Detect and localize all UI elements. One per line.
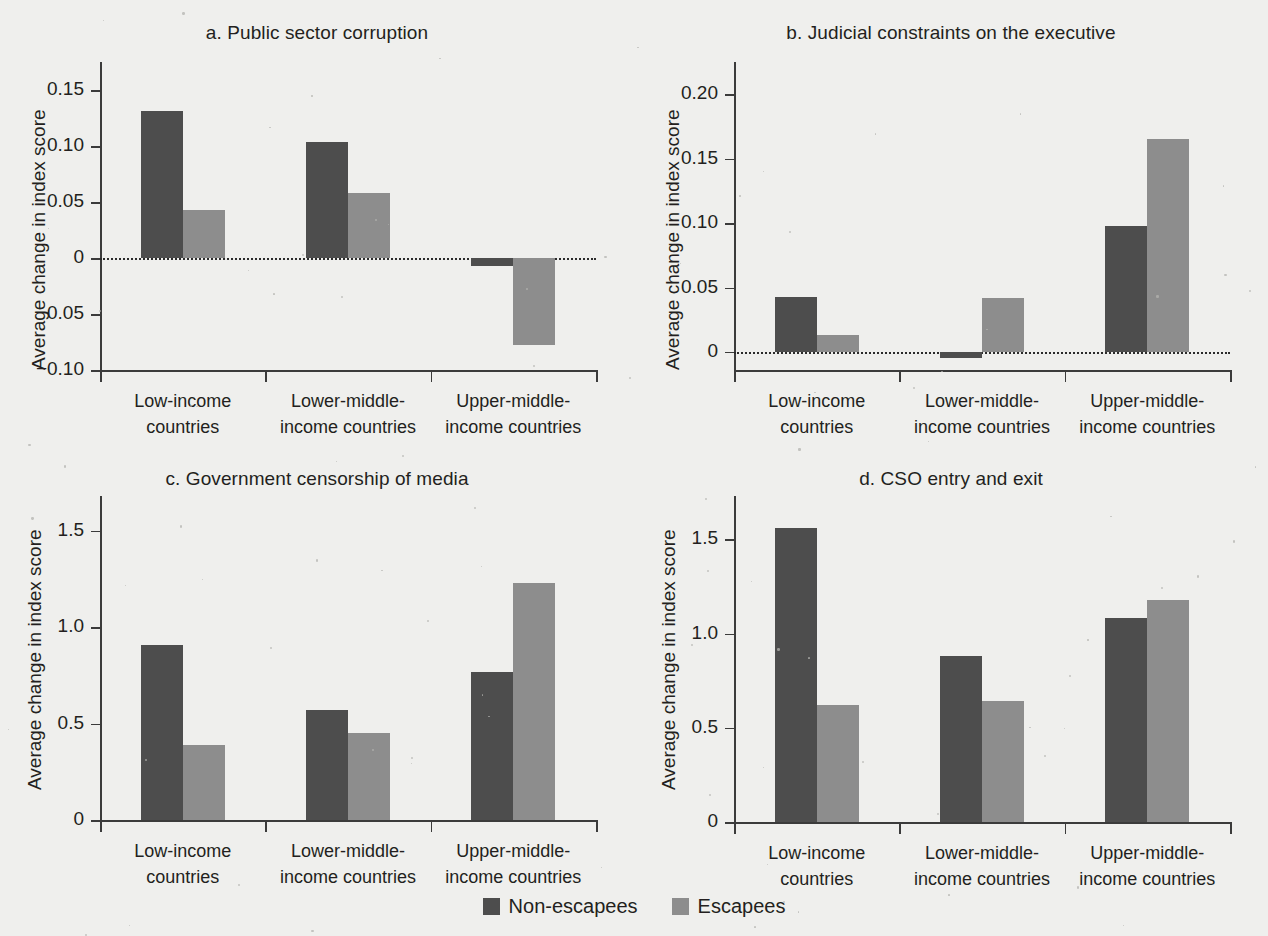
panel-a-category-label-2-line-1: income countries [417, 414, 610, 440]
panel-b-x-axis [734, 370, 1230, 372]
panel-a-category-label-0-line-0: Low-income [86, 388, 279, 414]
panel-c-ytick-0 [91, 531, 100, 533]
panel-a-ytick-4 [91, 314, 100, 316]
paper-speck [707, 570, 709, 572]
paper-speck [557, 427, 559, 429]
panel-c-bar-non-escapees-cat-2 [471, 672, 513, 821]
paper-speck [1224, 274, 1226, 276]
paper-speck [789, 231, 791, 233]
panel-c-category-label-2-line-1: income countries [417, 864, 610, 890]
panel-b-category-label-0-line-0: Low-income [720, 388, 913, 414]
panel-a-ytick-label-2: 0.05 [8, 190, 84, 212]
panel-b-cat-tick-origin [734, 370, 736, 382]
panel-b-bar-non-escapees-cat-1 [940, 352, 982, 358]
paper-speck [526, 288, 528, 290]
panel-b-category-label-1-line-0: Lower-middle- [885, 388, 1078, 414]
paper-speck [311, 930, 313, 932]
panel-c-cat-tick-1 [431, 820, 433, 832]
panel-b-bar-escapees-cat-2 [1147, 139, 1189, 352]
paper-speck [1087, 639, 1088, 640]
chart-legend: Non-escapees Escapees [0, 895, 1268, 918]
panel-a-bar-escapees-cat-0 [183, 210, 225, 258]
panel-d-cat-tick-0 [899, 822, 901, 834]
panel-a-cat-tick-1 [431, 370, 433, 382]
panel-d-cat-tick-1 [1065, 822, 1067, 834]
paper-speck [767, 864, 768, 865]
legend-label-escapees: Escapees [698, 895, 786, 918]
paper-speck [862, 761, 864, 763]
panel-b-category-label-2-line-0: Upper-middle- [1051, 388, 1244, 414]
panel-a-ytick-3 [91, 258, 100, 260]
panel-d-category-label-1-line-1: income countries [885, 866, 1078, 892]
panel-d-ytick-3 [725, 822, 734, 824]
panel-b-category-label-1-line-1: income countries [885, 414, 1078, 440]
panel-c-bar-non-escapees-cat-0 [141, 645, 183, 821]
legend-label-non-escapees: Non-escapees [509, 895, 638, 918]
panel-c-title: c. Government censorship of media [0, 468, 634, 490]
paper-speck [1110, 516, 1111, 517]
panel-b-ytick-label-3: 0.05 [642, 276, 718, 298]
panel-c-category-label-1-line-0: Lower-middle- [251, 838, 444, 864]
panel-d-category-label-2-line-1: income countries [1051, 866, 1244, 892]
panel-a-ytick-label-5: −0.10 [8, 358, 84, 380]
panel-a-y-axis [100, 62, 102, 370]
paper-speck [129, 925, 130, 926]
paper-speck [604, 256, 606, 258]
panel-b-cat-tick-0 [899, 370, 901, 382]
panel-a-bar-escapees-cat-2 [513, 258, 555, 345]
paper-speck [754, 926, 756, 928]
panel-b-ytick-label-2: 0.10 [642, 211, 718, 233]
panel-b-ytick-label-1: 0.15 [642, 147, 718, 169]
panel-d-ytick-label-3: 0 [642, 810, 718, 832]
panel-c-category-label-1-line-1: income countries [251, 864, 444, 890]
panel-a-ytick-5 [91, 370, 100, 372]
panel-b-ytick-0 [725, 94, 734, 96]
paper-speck [777, 648, 780, 651]
panel-b-bar-escapees-cat-1 [982, 298, 1024, 352]
panel-b-cat-tick-1 [1065, 370, 1067, 382]
panel-c-bar-non-escapees-cat-1 [306, 710, 348, 820]
panel-b-ytick-3 [725, 288, 734, 290]
panel-d-bar-escapees-cat-1 [982, 701, 1024, 822]
legend-swatch-escapees-icon [672, 898, 689, 915]
panel-b-ytick-label-0: 0.20 [642, 82, 718, 104]
panel-d-ytick-1 [725, 634, 734, 636]
legend-item-non-escapees[interactable]: Non-escapees [483, 895, 638, 918]
panel-a-category-label-1-line-0: Lower-middle- [251, 388, 444, 414]
paper-speck [180, 525, 182, 527]
legend-swatch-non-escapees-icon [483, 898, 500, 915]
panel-a-cat-tick-0 [265, 370, 267, 382]
panel-b-ytick-1 [725, 159, 734, 161]
panel-d-ytick-label-1: 1.0 [642, 622, 718, 644]
panel-b-bar-non-escapees-cat-2 [1105, 226, 1147, 352]
paper-speck [808, 657, 810, 659]
panel-c-cat-tick-0 [265, 820, 267, 832]
panel-a-bar-non-escapees-cat-1 [306, 142, 348, 258]
panel-a-bar-non-escapees-cat-0 [141, 111, 183, 258]
panel-d-ytick-2 [725, 728, 734, 730]
paper-speck [798, 911, 799, 912]
panel-d-y-axis [734, 496, 736, 822]
paper-speck [739, 195, 741, 197]
panel-b-zero-line [734, 352, 1230, 354]
panel-a-ytick-2 [91, 202, 100, 204]
panel-b-bar-escapees-cat-0 [817, 335, 859, 352]
paper-speck [875, 133, 876, 134]
panel-a-ytick-label-3: 0 [8, 246, 84, 268]
panel-a-bar-escapees-cat-1 [348, 193, 390, 258]
panel-d-ytick-0 [725, 539, 734, 541]
panel-a-ytick-1 [91, 146, 100, 148]
panel-b-ytick-4 [725, 352, 734, 354]
panel-d-x-axis [734, 822, 1230, 824]
panel-d-bar-escapees-cat-0 [817, 705, 859, 822]
panel-b-category-label-2-line-1: income countries [1051, 414, 1244, 440]
legend-item-escapees[interactable]: Escapees [672, 895, 786, 918]
panel-a-x-axis [100, 370, 596, 372]
panel-b-ytick-label-4: 0 [642, 340, 718, 362]
panel-a-category-label-0-line-1: countries [86, 414, 279, 440]
panel-b-category-label-0-line-1: countries [720, 414, 913, 440]
panel-c-ytick-label-1: 1.0 [8, 615, 84, 637]
panel-a-cat-tick-2 [596, 370, 598, 382]
panel-c-ytick-1 [91, 627, 100, 629]
panel-c-ytick-label-0: 1.5 [8, 519, 84, 541]
